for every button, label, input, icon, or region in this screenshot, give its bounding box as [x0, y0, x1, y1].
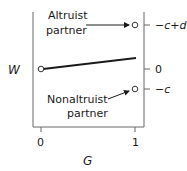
tick-label-minus-c: −c — [155, 83, 170, 96]
nonaltruist-label-2: partner — [67, 107, 108, 120]
tick-label-c-plus-d: −c+d — [155, 19, 187, 32]
nonaltruist-point — [132, 86, 138, 92]
nonaltruist-label-1: Nonaltruist — [47, 93, 108, 106]
altruist-label-2: partner — [46, 24, 87, 37]
altruist-label-1: Altruist — [48, 9, 88, 22]
x-tick-0: 0 — [37, 136, 44, 149]
y-axis-label: W — [8, 63, 21, 77]
altruist-point — [132, 22, 138, 28]
origin-point — [38, 66, 44, 72]
nonaltruist-arrow — [108, 91, 129, 99]
diagram: Altruist partner Nonaltruist partner −c+… — [0, 0, 187, 171]
x-axis-label: G — [83, 154, 92, 168]
x-tick-1: 1 — [132, 136, 139, 149]
fitness-line — [43, 58, 136, 69]
tick-label-zero: 0 — [155, 63, 162, 76]
